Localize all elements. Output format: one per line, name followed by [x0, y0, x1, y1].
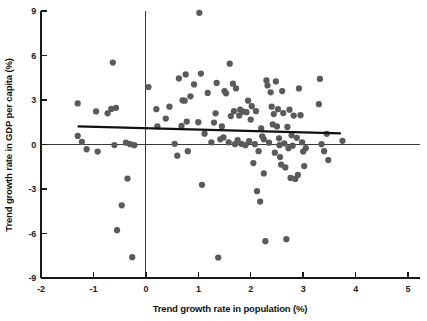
data-point [223, 90, 229, 96]
data-point [226, 139, 232, 145]
data-point [199, 182, 205, 188]
data-point [275, 106, 281, 112]
data-point [262, 238, 268, 244]
data-point [266, 140, 272, 146]
data-point [299, 139, 305, 145]
data-point [227, 61, 233, 67]
data-point [250, 160, 256, 166]
data-point [295, 172, 301, 178]
data-point [233, 85, 239, 91]
data-point [187, 93, 193, 99]
regression-line [78, 126, 341, 133]
data-point [296, 85, 302, 91]
data-point [182, 98, 188, 104]
data-point [219, 123, 225, 129]
data-point [131, 142, 137, 148]
data-point [114, 227, 120, 233]
x-tick-label: 4 [353, 284, 358, 294]
scatter-chart-figure: -2-1012345 -9-6-30369 Trend growth rate … [0, 0, 427, 321]
y-axis-tick-labels-group: -9-6-30369 [28, 6, 36, 283]
data-point [75, 133, 81, 139]
data-point [184, 118, 190, 124]
data-point [111, 142, 117, 148]
y-tick-label: -3 [28, 184, 36, 194]
data-point [214, 80, 220, 86]
data-point [119, 202, 125, 208]
data-point [261, 170, 267, 176]
data-point [321, 148, 327, 154]
x-tick-label: 0 [143, 284, 148, 294]
data-point [268, 89, 274, 95]
data-point [272, 150, 278, 156]
data-point [257, 198, 263, 204]
data-point [113, 105, 119, 111]
data-point [215, 254, 221, 260]
data-point [279, 88, 285, 94]
data-point [291, 112, 297, 118]
data-point [172, 141, 178, 147]
data-point [191, 81, 197, 87]
data-point [110, 59, 116, 65]
data-point [75, 100, 81, 106]
data-point [284, 124, 290, 130]
data-point [271, 111, 277, 117]
data-point [290, 143, 296, 149]
x-axis-title: Trend growth rate in population (%) [153, 303, 308, 314]
data-point [277, 154, 283, 160]
data-point [276, 135, 282, 141]
data-point [93, 108, 99, 114]
data-point [196, 10, 202, 16]
data-point [245, 98, 251, 104]
y-axis-ticks-group [41, 11, 47, 278]
x-tick-label: 3 [301, 284, 306, 294]
x-tick-label: 2 [248, 284, 253, 294]
data-point [94, 148, 100, 154]
data-point [243, 109, 249, 115]
y-tick-label: -9 [28, 273, 36, 283]
data-point [163, 115, 169, 121]
y-tick-label: 6 [31, 51, 36, 61]
x-axis-ticks-group [41, 272, 408, 278]
data-point [325, 157, 331, 163]
data-point [248, 116, 254, 122]
data-point [255, 148, 261, 154]
data-point [205, 90, 211, 96]
data-point [174, 153, 180, 159]
data-point [195, 119, 201, 125]
data-point [153, 106, 159, 112]
chart-canvas: -2-1012345 -9-6-30369 Trend growth rate … [0, 0, 427, 321]
data-point [294, 135, 300, 141]
x-tick-label: -2 [37, 284, 45, 294]
data-point [166, 104, 172, 110]
data-point [129, 254, 135, 260]
data-point [273, 78, 279, 84]
data-point [280, 110, 286, 116]
data-point [212, 110, 218, 116]
data-point [83, 146, 89, 152]
data-point [261, 136, 267, 142]
data-point [208, 139, 214, 145]
data-point [339, 138, 345, 144]
data-point [124, 175, 130, 181]
data-point [274, 123, 280, 129]
scatter-points-group [75, 10, 346, 261]
data-point [317, 76, 323, 82]
data-point [297, 112, 303, 118]
data-point [254, 188, 260, 194]
data-point [176, 75, 182, 81]
data-point [79, 139, 85, 145]
y-axis-title: Trend growth rate in GDP per capita (%) [3, 58, 14, 231]
data-point [316, 101, 322, 107]
y-tick-label: 9 [31, 6, 36, 16]
y-tick-label: 3 [31, 95, 36, 105]
data-point [249, 103, 255, 109]
data-point [246, 138, 252, 144]
data-point [303, 145, 309, 151]
y-tick-label: -6 [28, 229, 36, 239]
data-point [253, 108, 259, 114]
data-point [252, 141, 258, 147]
x-tick-label: -1 [90, 284, 98, 294]
data-point [264, 82, 270, 88]
data-point [231, 108, 237, 114]
data-point [276, 142, 282, 148]
